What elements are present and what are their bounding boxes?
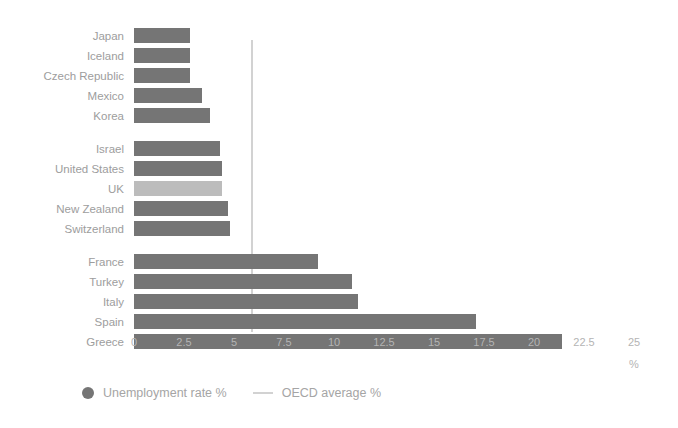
bar[interactable] — [134, 181, 222, 196]
bar[interactable] — [134, 221, 230, 236]
bar-category-label: France — [88, 256, 124, 268]
bar-category-label: Mexico — [88, 90, 124, 102]
bar-row: Israel — [134, 141, 634, 156]
x-axis-tick-label: 17.5 — [473, 336, 494, 348]
bar-category-label: Spain — [95, 316, 124, 328]
bar-category-label: Italy — [103, 296, 124, 308]
bar-row: UK — [134, 181, 634, 196]
bar-row: Czech Republic — [134, 68, 634, 83]
bar-category-label: Switzerland — [65, 223, 124, 235]
x-axis-tick-label: 5 — [231, 336, 237, 348]
line-marker-icon — [253, 392, 273, 394]
bar-category-label: Czech Republic — [43, 70, 124, 82]
legend-item-oecd-average: OECD average % — [253, 386, 381, 400]
bar-row: New Zealand — [134, 201, 634, 216]
bar-row: Switzerland — [134, 221, 634, 236]
x-axis-tick-label: 7.5 — [276, 336, 291, 348]
bar-category-label: Korea — [93, 110, 124, 122]
legend-label-unemployment-rate: Unemployment rate % — [103, 386, 227, 400]
bar[interactable] — [134, 201, 228, 216]
bar-category-label: Israel — [96, 143, 124, 155]
x-axis-tick-label: 15 — [428, 336, 440, 348]
legend-label-oecd-average: OECD average % — [282, 386, 381, 400]
x-axis: 02.557.51012.51517.52022.525 — [134, 336, 634, 354]
bar-row: Japan — [134, 28, 634, 43]
x-axis-tick-label: 25 — [628, 336, 640, 348]
bar[interactable] — [134, 48, 190, 63]
bar[interactable] — [134, 108, 210, 123]
bar[interactable] — [134, 68, 190, 83]
bar-row: Mexico — [134, 88, 634, 103]
unemployment-bar-chart: JapanIcelandCzech RepublicMexicoKoreaIsr… — [0, 0, 678, 428]
bar[interactable] — [134, 141, 220, 156]
bar-category-label: Turkey — [89, 276, 124, 288]
x-axis-tick-label: 22.5 — [573, 336, 594, 348]
x-axis-tick-label: 2.5 — [176, 336, 191, 348]
bar-row: France — [134, 254, 634, 269]
bar[interactable] — [134, 88, 202, 103]
bar[interactable] — [134, 28, 190, 43]
bar-row: Turkey — [134, 274, 634, 289]
legend-item-unemployment-rate: Unemployment rate % — [82, 386, 227, 400]
x-axis-tick-label: 20 — [528, 336, 540, 348]
bar[interactable] — [134, 274, 352, 289]
bar[interactable] — [134, 294, 358, 309]
chart-legend: Unemployment rate % OECD average % — [82, 386, 381, 400]
bar-row: United States — [134, 161, 634, 176]
bar-category-label: United States — [55, 163, 124, 175]
bar-category-label: UK — [108, 183, 124, 195]
bar-category-label: Iceland — [87, 50, 124, 62]
bar-category-label: Japan — [93, 30, 124, 42]
x-axis-tick-label: 0 — [131, 336, 137, 348]
bar-category-label: Greece — [86, 336, 124, 348]
bar-row: Korea — [134, 108, 634, 123]
bar-category-label: New Zealand — [56, 203, 124, 215]
x-axis-tick-label: 10 — [328, 336, 340, 348]
x-axis-unit-label: % — [629, 358, 639, 370]
plot-area: JapanIcelandCzech RepublicMexicoKoreaIsr… — [134, 28, 634, 331]
bar-row: Iceland — [134, 48, 634, 63]
bar[interactable] — [134, 161, 222, 176]
bar[interactable] — [134, 254, 318, 269]
x-axis-tick-label: 12.5 — [373, 336, 394, 348]
dot-marker-icon — [82, 387, 94, 399]
bar[interactable] — [134, 314, 476, 329]
bar-row: Spain — [134, 314, 634, 329]
bar-row: Italy — [134, 294, 634, 309]
